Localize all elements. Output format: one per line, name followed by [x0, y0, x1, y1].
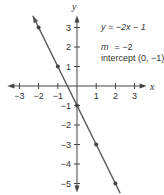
x-tick-label: 2 [113, 91, 118, 101]
slope-symbol: m [101, 42, 109, 52]
y-tick-label: −4 [61, 159, 71, 169]
equation-label: y = −2x − 1 [100, 22, 146, 32]
data-point [75, 104, 79, 108]
data-point [113, 182, 117, 186]
x-axis-left-arrow [7, 84, 14, 89]
intercept-annotation: intercept (0, −1) [101, 53, 164, 63]
x-tick-label: −1 [53, 91, 63, 101]
slope-value: = −2 [115, 42, 133, 52]
y-tick-label: −2 [61, 120, 71, 130]
y-tick-label: −3 [61, 140, 71, 150]
data-point [37, 26, 41, 30]
x-tick-label: −2 [33, 91, 43, 101]
x-tick-label: 1 [94, 91, 99, 101]
data-point [94, 143, 98, 147]
x-tick-label: 3 [132, 91, 137, 101]
chart: −3−2−1123321−1−2−3−4−5 x y y = −2x − 1 m… [0, 0, 164, 195]
x-axis-label: x [149, 81, 155, 92]
data-point [56, 65, 60, 69]
x-tick-label: −3 [14, 91, 24, 101]
y-tick-label: −1 [61, 101, 71, 111]
y-tick-label: 2 [66, 42, 71, 52]
x-axis-right-arrow [140, 84, 147, 89]
y-tick-label: −5 [61, 179, 71, 189]
y-axis-bottom-arrow [75, 186, 80, 193]
y-axis-label: y [71, 1, 77, 12]
y-tick-label: 1 [66, 62, 71, 72]
series-arrow [33, 16, 38, 23]
y-tick-label: 3 [66, 23, 71, 33]
y-axis-top-arrow [75, 16, 80, 23]
slope-annotation: m = −2 [101, 36, 133, 53]
